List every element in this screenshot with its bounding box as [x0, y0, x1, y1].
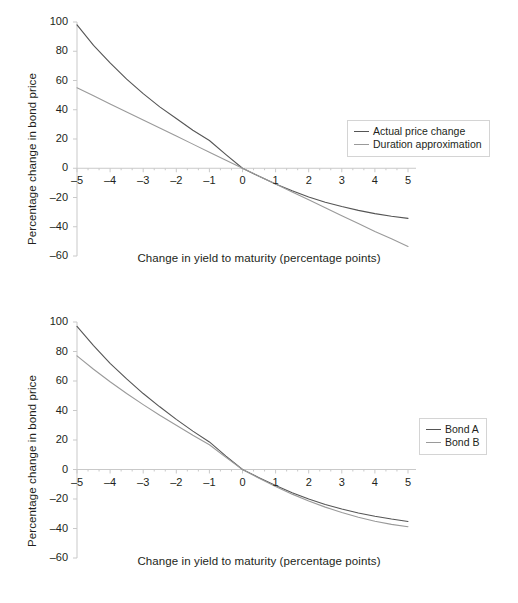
x-tick-label: –1 — [194, 174, 224, 186]
y-tick-label: –40 — [37, 522, 68, 534]
legend-item[interactable]: Bond B — [426, 436, 479, 449]
x-tick-label: –4 — [95, 174, 125, 186]
x-tick-label: –3 — [128, 476, 158, 488]
series-line-bond-b — [77, 356, 408, 527]
x-tick-label: 4 — [360, 174, 390, 186]
x-axis-title-bottom: Change in yield to maturity (percentage … — [0, 555, 518, 567]
y-tick-label: 20 — [37, 433, 68, 445]
legend-item[interactable]: Duration approximation — [354, 138, 482, 151]
x-tick-label: –3 — [128, 174, 158, 186]
bond-convexity-figure: Percentage change in bond price Change i… — [0, 0, 518, 603]
chart-panel-top: Percentage change in bond price Change i… — [0, 0, 518, 300]
x-tick-label: –4 — [95, 476, 125, 488]
legend-swatch-bond-a — [426, 429, 441, 430]
legend-item[interactable]: Actual price change — [354, 125, 482, 138]
legend-item[interactable]: Bond A — [426, 423, 479, 436]
legend-label: Actual price change — [373, 125, 465, 138]
legend-label: Bond B — [445, 436, 479, 449]
series-line-bond-a — [77, 326, 408, 521]
y-tick-label: –20 — [37, 492, 68, 504]
y-tick-label: 80 — [37, 345, 68, 357]
x-tick-label: –1 — [194, 476, 224, 488]
y-tick-label: 0 — [37, 161, 68, 173]
legend-label: Duration approximation — [373, 138, 482, 151]
y-tick-label: 0 — [37, 463, 68, 475]
x-tick-label: 0 — [228, 174, 258, 186]
x-tick-label: 2 — [294, 174, 324, 186]
y-tick-label: –60 — [37, 249, 68, 261]
x-tick-label: 5 — [393, 174, 423, 186]
y-tick-label: –20 — [37, 191, 68, 203]
legend-swatch-bond-b — [426, 442, 441, 443]
y-tick-label: –60 — [37, 551, 68, 563]
x-tick-label: 4 — [360, 476, 390, 488]
y-tick-label: 80 — [37, 44, 68, 56]
y-tick-label: 60 — [37, 74, 68, 86]
x-tick-label: –5 — [62, 174, 92, 186]
y-tick-label: –40 — [37, 220, 68, 232]
x-tick-label: 2 — [294, 476, 324, 488]
x-tick-label: 1 — [261, 476, 291, 488]
y-tick-label: 20 — [37, 132, 68, 144]
y-tick-label: 40 — [37, 404, 68, 416]
x-tick-label: 3 — [327, 174, 357, 186]
legend-bottom: Bond A Bond B — [419, 418, 487, 455]
legend-label: Bond A — [445, 423, 479, 436]
legend-swatch-actual-price-change — [354, 131, 369, 132]
y-tick-label: 100 — [37, 15, 68, 27]
legend-swatch-duration-approximation — [354, 144, 369, 145]
y-tick-label: 40 — [37, 103, 68, 115]
chart-panel-bottom: Percentage change in bond price Change i… — [0, 300, 518, 603]
x-tick-label: 1 — [261, 174, 291, 186]
y-tick-label: 60 — [37, 374, 68, 386]
y-tick-label: 100 — [37, 315, 68, 327]
x-tick-label: 0 — [228, 476, 258, 488]
x-tick-label: –2 — [161, 174, 191, 186]
x-tick-label: 5 — [393, 476, 423, 488]
series-line-duration-approximation — [77, 88, 408, 247]
legend-top: Actual price change Duration approximati… — [347, 120, 490, 157]
x-tick-label: 3 — [327, 476, 357, 488]
x-tick-label: –5 — [62, 476, 92, 488]
x-axis-title-top: Change in yield to maturity (percentage … — [0, 252, 518, 264]
x-tick-label: –2 — [161, 476, 191, 488]
